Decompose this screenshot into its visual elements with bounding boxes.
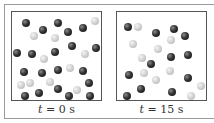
dark-particle xyxy=(65,92,73,100)
light-particle xyxy=(187,92,195,100)
dark-particle xyxy=(168,88,176,96)
dark-particle xyxy=(68,42,76,50)
dark-particle xyxy=(54,19,62,27)
light-particle xyxy=(46,78,54,86)
light-particle xyxy=(81,50,89,58)
light-particle xyxy=(138,54,146,62)
light-particle xyxy=(167,36,175,44)
light-particle xyxy=(26,79,34,87)
light-particle xyxy=(197,82,205,90)
time-variable: t xyxy=(38,103,42,116)
dark-particle xyxy=(184,74,192,82)
light-particle xyxy=(66,64,74,72)
light-particle xyxy=(30,32,38,40)
dark-particle xyxy=(54,66,62,74)
dark-particle xyxy=(184,51,192,59)
dark-particle xyxy=(152,29,160,37)
panel-t15 xyxy=(116,11,207,101)
light-particle xyxy=(91,17,99,25)
dark-particle xyxy=(64,28,72,36)
light-particle xyxy=(40,55,48,63)
dark-particle xyxy=(170,25,178,33)
light-particle xyxy=(129,40,137,48)
light-particle xyxy=(140,69,148,77)
time-value: = 15 s xyxy=(148,103,184,116)
dark-particle xyxy=(92,44,100,52)
dark-particle xyxy=(86,92,94,100)
dark-particle xyxy=(28,50,36,58)
time-variable: t xyxy=(140,103,144,116)
dark-particle xyxy=(35,89,43,97)
light-particle xyxy=(152,76,160,84)
panel-label-t0: t = 0 s xyxy=(11,103,102,116)
time-value: = 0 s xyxy=(46,103,75,116)
dark-particle xyxy=(167,53,175,61)
dark-particle xyxy=(22,19,30,27)
dark-particle xyxy=(54,85,62,93)
dark-particle xyxy=(79,24,87,32)
dark-particle xyxy=(13,49,21,57)
dark-particle xyxy=(147,60,155,68)
light-particle xyxy=(17,81,25,89)
dark-particle xyxy=(85,79,93,87)
dark-particle xyxy=(123,92,131,100)
dark-particle xyxy=(79,67,87,75)
dark-particle xyxy=(137,85,145,93)
light-particle xyxy=(166,67,174,75)
dark-particle xyxy=(38,69,46,77)
light-particle xyxy=(154,45,162,53)
dark-particle xyxy=(124,23,132,31)
panel-label-t15: t = 15 s xyxy=(116,103,207,116)
light-particle xyxy=(73,86,81,94)
dark-particle xyxy=(21,92,29,100)
dark-particle xyxy=(20,68,28,76)
light-particle xyxy=(134,23,142,31)
dark-particle xyxy=(51,48,59,56)
panel-t0 xyxy=(11,11,102,101)
dark-particle xyxy=(39,26,47,34)
light-particle xyxy=(51,34,59,42)
dark-particle xyxy=(125,71,133,79)
dark-particle xyxy=(181,32,189,40)
